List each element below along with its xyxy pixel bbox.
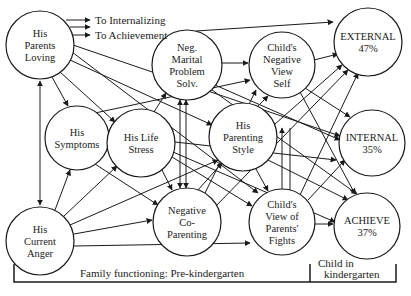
node-life-stress: His LifeStress [107, 109, 175, 177]
node-parents-loving: HisParentsLoving [6, 11, 74, 79]
node-label: View of [265, 211, 299, 222]
node-achieve: ACHIEVE37% [334, 193, 400, 259]
node-label: His Life [124, 132, 159, 143]
node-label: EXTERNAL [340, 31, 395, 42]
node-parenting-style: HisParentingStyle [209, 103, 277, 171]
node-neg-coparenting: NegativeCo-Parenting [153, 188, 221, 256]
node-label: INTERNAL [346, 132, 399, 143]
edge-childview-internal [305, 88, 350, 117]
legend-internalizing: To Internalizing [95, 14, 166, 26]
edge-anger-symptoms [55, 170, 70, 210]
nodes: HisParentsLovingNeg.MaritalProblemSolv.C… [6, 8, 405, 275]
node-child-neg-view: Child'sNegativeViewSelf [249, 32, 315, 98]
node-label: His [70, 127, 85, 138]
node-label: View [271, 66, 294, 77]
node-symptoms: HisSymptoms [45, 106, 109, 170]
edge-parenting-fights [256, 169, 268, 191]
node-label: Marital [172, 54, 203, 65]
node-label: ACHIEVE [344, 215, 390, 226]
node-label: Current [24, 236, 56, 247]
node-label: Negative [263, 54, 301, 65]
node-label: Self [274, 78, 291, 89]
node-label: Symptoms [55, 139, 100, 150]
node-label: Co- [179, 217, 195, 228]
node-external: EXTERNAL47% [334, 8, 402, 76]
node-label: Child's [267, 42, 296, 53]
node-label: Parents' [266, 223, 299, 234]
node-label: 35% [362, 144, 382, 155]
node-label: Fights [269, 235, 295, 246]
edge-anger-coparenting [74, 220, 152, 234]
section-family-label: Family functioning: Pre-kindergarten [80, 267, 245, 279]
node-label: Style [232, 144, 254, 155]
node-label: Negative [168, 205, 206, 216]
node-label: His [33, 224, 48, 235]
node-label: Parents [25, 40, 56, 51]
node-child-view-fights: Child'sView ofParents'Fights [249, 189, 315, 255]
node-current-anger: HisCurrentAnger [6, 207, 74, 275]
node-label: 47% [358, 43, 378, 54]
node-label: Anger [27, 248, 54, 259]
node-internal: INTERNAL35% [339, 110, 405, 176]
edge-lifestress-marital [154, 93, 166, 112]
path-diagram: HisParentsLovingNeg.MaritalProblemSolv.C… [0, 0, 411, 296]
node-label: Parenting [167, 229, 208, 240]
node-label: Child's [267, 199, 296, 210]
edge-marital-external [196, 22, 333, 31]
node-label: Stress [128, 144, 153, 155]
section-child-label-2: kindergarten [324, 268, 380, 280]
edge-loving-symptoms [52, 77, 68, 106]
node-label: 37% [357, 227, 377, 238]
edge-lifestress-coparenting [162, 170, 172, 190]
edge-childview-external [314, 54, 338, 60]
node-label: Parenting [223, 132, 264, 143]
node-label: Neg. [177, 42, 197, 53]
node-label: Problem [169, 66, 205, 77]
node-label: Loving [25, 52, 56, 63]
node-label: His [236, 120, 251, 131]
node-label: Solv. [176, 78, 197, 89]
node-label: His [33, 28, 48, 39]
legend-achievement: To Achievement [95, 29, 167, 41]
edge-parenting-childview [258, 96, 268, 106]
